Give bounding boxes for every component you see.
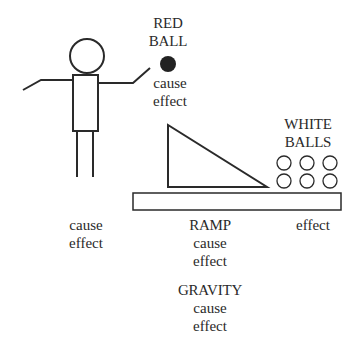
white-balls-group (277, 156, 337, 188)
gravity-cause-label: cause (193, 299, 226, 317)
ramp-effect-label: effect (193, 252, 227, 270)
ramp-name: RAMP (189, 216, 231, 234)
gravity-effect-label: effect (193, 317, 227, 335)
white-balls-name-line2: BALLS (285, 133, 332, 151)
white-ball (323, 156, 337, 170)
person-head (70, 39, 104, 73)
white-ball (300, 174, 314, 188)
white-ball (277, 174, 291, 188)
gravity-name: GRAVITY (178, 281, 242, 299)
red-ball-cause-label: cause (153, 74, 186, 92)
person-effect-label: effect (69, 234, 103, 252)
white-ball (323, 174, 337, 188)
stick-figure-person (23, 39, 150, 177)
red-ball (160, 56, 176, 72)
ramp-cause-label: cause (193, 234, 226, 252)
person-left-arm (23, 80, 73, 90)
white-balls-name-line1: WHITE (284, 115, 331, 133)
person-right-arm (98, 68, 150, 83)
red-ball-name-line1: RED (153, 14, 182, 32)
white-ball (277, 156, 291, 170)
red-ball-name-line2: BALL (149, 32, 187, 50)
red-ball-effect-label: effect (153, 92, 187, 110)
ramp-triangle (168, 125, 267, 187)
plank (133, 193, 341, 210)
white-balls-effect-label: effect (296, 216, 330, 234)
white-ball (300, 156, 314, 170)
person-body (73, 75, 98, 131)
person-cause-label: cause (69, 216, 102, 234)
